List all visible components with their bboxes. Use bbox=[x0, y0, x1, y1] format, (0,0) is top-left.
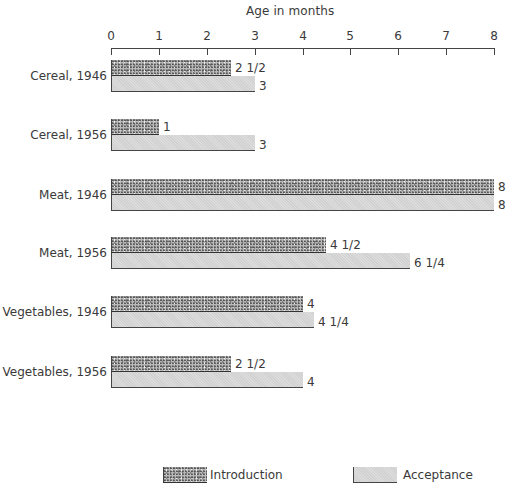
x-tick-label: 1 bbox=[149, 29, 169, 43]
bar-acceptance bbox=[111, 135, 255, 151]
value-label-acceptance: 6 1/4 bbox=[414, 256, 445, 270]
value-label-acceptance: 3 bbox=[259, 138, 267, 152]
bar-introduction bbox=[111, 60, 231, 76]
x-tick-label: 3 bbox=[245, 29, 265, 43]
bar-acceptance bbox=[111, 253, 410, 269]
value-label-introduction: 8 bbox=[498, 180, 506, 194]
x-axis-title: Age in months bbox=[246, 4, 334, 18]
x-tick-label: 8 bbox=[484, 29, 504, 43]
x-tick bbox=[207, 48, 208, 55]
bar-introduction bbox=[111, 179, 494, 195]
bar-acceptance bbox=[111, 76, 255, 92]
category-label: Vegetables, 1956 bbox=[3, 365, 107, 379]
x-tick bbox=[398, 48, 399, 55]
legend-label-acceptance: Acceptance bbox=[403, 468, 473, 482]
value-label-introduction: 4 1/2 bbox=[330, 238, 361, 252]
x-tick bbox=[350, 48, 351, 55]
bar-introduction bbox=[111, 296, 303, 312]
legend-swatch-acceptance bbox=[353, 467, 397, 483]
category-label: Cereal, 1946 bbox=[30, 69, 107, 83]
bar-acceptance bbox=[111, 312, 314, 328]
x-tick-label: 4 bbox=[293, 29, 313, 43]
value-label-acceptance: 4 1/4 bbox=[318, 315, 349, 329]
x-tick-label: 0 bbox=[101, 29, 121, 43]
value-label-acceptance: 4 bbox=[307, 375, 315, 389]
category-label: Cereal, 1956 bbox=[30, 128, 107, 142]
x-tick bbox=[494, 48, 495, 55]
category-label: Meat, 1946 bbox=[39, 188, 107, 202]
x-tick bbox=[446, 48, 447, 55]
x-tick-label: 2 bbox=[197, 29, 217, 43]
value-label-introduction: 2 1/2 bbox=[235, 357, 266, 371]
bar-introduction bbox=[111, 237, 326, 253]
legend-swatch-introduction bbox=[163, 467, 207, 483]
x-tick bbox=[255, 48, 256, 55]
x-tick-label: 6 bbox=[388, 29, 408, 43]
x-tick-label: 7 bbox=[436, 29, 456, 43]
x-tick-label: 5 bbox=[340, 29, 360, 43]
x-tick bbox=[303, 48, 304, 55]
bar-introduction bbox=[111, 119, 159, 135]
bar-introduction bbox=[111, 356, 231, 372]
legend-label-introduction: Introduction bbox=[210, 468, 283, 482]
value-label-introduction: 4 bbox=[307, 297, 315, 311]
value-label-introduction: 2 1/2 bbox=[235, 61, 266, 75]
category-label: Vegetables, 1946 bbox=[3, 305, 107, 319]
x-tick bbox=[111, 48, 112, 55]
value-label-introduction: 1 bbox=[163, 120, 171, 134]
category-label: Meat, 1956 bbox=[39, 246, 107, 260]
value-label-acceptance: 3 bbox=[259, 79, 267, 93]
bar-acceptance bbox=[111, 195, 494, 211]
bar-acceptance bbox=[111, 372, 303, 388]
value-label-acceptance: 8 bbox=[498, 198, 506, 212]
x-tick bbox=[159, 48, 160, 55]
